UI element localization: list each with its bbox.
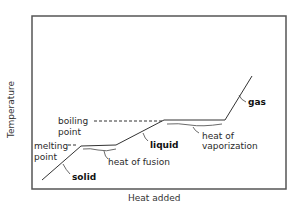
liquid-leader: [143, 133, 148, 141]
x-axis-label: Heat added: [128, 193, 180, 203]
solid-label: solid: [72, 172, 96, 182]
gas-label: gas: [248, 97, 266, 107]
solid-leader: [63, 164, 70, 174]
y-axis-label: Temperature: [6, 81, 16, 138]
melting-label: melting: [34, 141, 68, 151]
boiling-point-label: point: [58, 127, 81, 137]
heat-of-fusion-label: heat of fusion: [108, 157, 170, 167]
boiling-label: boiling: [58, 116, 88, 126]
vaporization-brace: [167, 124, 222, 126]
vaporization-leader: [193, 127, 199, 133]
melting-point-label: point: [34, 152, 57, 162]
liquid-label: liquid: [150, 140, 179, 150]
heat-of-vaporization-label-2: vaporization: [202, 141, 258, 151]
fusion-brace: [83, 149, 116, 151]
heat-of-vaporization-label-1: heat of: [202, 131, 234, 141]
